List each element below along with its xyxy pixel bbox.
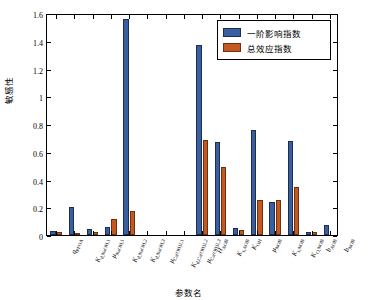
x-tick-top bbox=[74, 15, 75, 19]
x-tick-label: Kd,Ca(OH)2,2 bbox=[189, 237, 208, 269]
x-tick-label: qPFOA bbox=[70, 237, 84, 256]
x-tick-top bbox=[293, 15, 294, 19]
y-tick-label: 0.4 bbox=[33, 177, 43, 186]
x-tick-label: μNOB bbox=[269, 237, 283, 253]
legend-item-first-order: 一阶影响指数 bbox=[223, 25, 325, 40]
bar-first-order bbox=[269, 202, 274, 235]
x-tick bbox=[330, 231, 331, 235]
bar-first-order bbox=[50, 231, 55, 235]
bar-total-effect bbox=[239, 230, 244, 235]
y-axis-title: 敏感性 bbox=[2, 77, 14, 104]
x-tick-label: μNaOH,1 bbox=[109, 237, 125, 259]
x-tick bbox=[93, 231, 94, 235]
x-tick-label: KOH bbox=[249, 237, 262, 251]
bar-first-order bbox=[123, 19, 128, 235]
bar-total-effect bbox=[93, 232, 98, 235]
y-tick-label: 1.2 bbox=[33, 66, 43, 75]
y-tick-label: 0 bbox=[39, 233, 43, 242]
y-tick-right bbox=[333, 70, 337, 71]
x-tick bbox=[312, 231, 313, 235]
bar-total-effect bbox=[111, 219, 116, 235]
x-tick-top bbox=[257, 15, 258, 19]
x-tick-top bbox=[184, 15, 185, 19]
x-tick-top bbox=[129, 15, 130, 19]
x-tick-top bbox=[330, 15, 331, 19]
y-tick bbox=[47, 208, 51, 209]
legend-label-total-effect: 总效应指数 bbox=[247, 42, 292, 54]
x-tick-label: Kd,NaOH,1 bbox=[94, 237, 111, 264]
y-tick bbox=[47, 153, 51, 154]
y-tick bbox=[47, 14, 51, 15]
x-tick-top bbox=[147, 15, 148, 19]
x-tick-top bbox=[220, 15, 221, 19]
bar-total-effect bbox=[221, 167, 226, 235]
x-tick-top bbox=[93, 15, 94, 19]
y-tick bbox=[47, 181, 51, 182]
x-tick bbox=[293, 231, 294, 235]
x-tick-label: Kd,NaOH,3 bbox=[149, 237, 166, 264]
y-tick bbox=[47, 97, 51, 98]
bar-first-order bbox=[215, 142, 220, 235]
y-tick bbox=[47, 125, 51, 126]
y-tick-label: 1.6 bbox=[33, 11, 43, 20]
x-tick-label: bNOB bbox=[342, 237, 356, 253]
x-tick-label: Kd,NaOH,2 bbox=[130, 237, 147, 264]
bar-first-order bbox=[87, 229, 92, 235]
x-tick bbox=[111, 231, 112, 235]
y-tick-right bbox=[333, 42, 337, 43]
y-tick-label: 1.4 bbox=[33, 38, 43, 47]
y-tick-right bbox=[333, 208, 337, 209]
x-tick-label: Ks,AOB bbox=[236, 237, 251, 258]
x-axis-title: 参数名 bbox=[0, 286, 377, 298]
bar-first-order bbox=[69, 207, 74, 235]
x-tick-top bbox=[202, 15, 203, 19]
x-tick bbox=[147, 231, 148, 235]
x-tick bbox=[166, 231, 167, 235]
y-tick-right bbox=[333, 153, 337, 154]
y-tick-label: 0.6 bbox=[33, 149, 43, 158]
bar-total-effect bbox=[57, 232, 62, 235]
x-tick-top bbox=[239, 15, 240, 19]
bar-first-order bbox=[196, 45, 201, 235]
x-tick-labels: qPFOAKd,NaOH,1μNaOH,1Kd,NaOH,2Kd,NaOH,3μ… bbox=[46, 237, 338, 283]
x-tick-label: bAOB bbox=[324, 237, 338, 253]
x-tick-label: μCa(OH)2,1 bbox=[167, 237, 185, 265]
bar-first-order bbox=[324, 225, 329, 235]
legend-item-total-effect: 总效应指数 bbox=[223, 40, 325, 55]
bar-first-order bbox=[306, 232, 311, 235]
y-tick-right bbox=[333, 97, 337, 98]
y-tick-right bbox=[333, 125, 337, 126]
x-tick bbox=[275, 231, 276, 235]
bar-first-order bbox=[251, 130, 256, 235]
y-tick bbox=[47, 70, 51, 71]
x-tick bbox=[239, 231, 240, 235]
y-tick bbox=[47, 42, 51, 43]
x-tick-top bbox=[56, 15, 57, 19]
y-tick-label: 0.8 bbox=[33, 122, 43, 131]
x-tick bbox=[129, 231, 130, 235]
legend: 一阶影响指数 总效应指数 bbox=[217, 20, 331, 60]
x-tick-top bbox=[312, 15, 313, 19]
y-tick-label: 0.2 bbox=[33, 205, 43, 214]
y-tick-right bbox=[333, 14, 337, 15]
x-tick-top bbox=[275, 15, 276, 19]
bar-first-order bbox=[233, 228, 238, 235]
x-tick-label: KO,NOB bbox=[310, 237, 326, 259]
y-tick-label: 1 bbox=[39, 94, 43, 103]
bar-total-effect bbox=[130, 211, 135, 235]
x-tick bbox=[257, 231, 258, 235]
x-tick bbox=[202, 231, 203, 235]
y-tick-right bbox=[333, 181, 337, 182]
legend-swatch-total-effect bbox=[223, 43, 241, 52]
legend-label-first-order: 一阶影响指数 bbox=[247, 27, 301, 39]
bar-total-effect bbox=[276, 200, 281, 235]
x-tick-top bbox=[166, 15, 167, 19]
legend-swatch-first-order bbox=[223, 28, 241, 37]
bar-first-order bbox=[288, 141, 293, 235]
x-tick bbox=[184, 231, 185, 235]
x-tick bbox=[74, 231, 75, 235]
bar-total-effect bbox=[75, 233, 80, 235]
bar-total-effect bbox=[257, 200, 262, 235]
bar-total-effect bbox=[294, 187, 299, 235]
x-tick bbox=[56, 231, 57, 235]
